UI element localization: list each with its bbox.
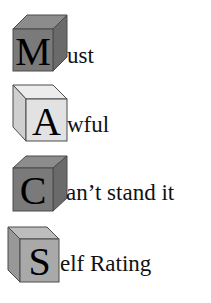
cube-letter: S <box>20 242 59 282</box>
cube-icon-m: M <box>12 14 68 72</box>
acronym-row-must: M ust <box>0 0 211 75</box>
word-remainder: ust <box>67 44 94 67</box>
cube-letter: C <box>13 171 53 211</box>
cube-icon-a: A <box>12 84 68 142</box>
cube-icon-s: S <box>7 226 60 283</box>
word-remainder: elf Rating <box>60 252 151 275</box>
acronym-row-awful: A wful <box>0 75 211 150</box>
cube-icon-c: C <box>12 155 68 213</box>
cube-letter: A <box>26 102 67 142</box>
acronym-row-cant-stand-it: C an’t stand it <box>0 150 211 222</box>
word-remainder: wful <box>67 113 109 136</box>
acronym-row-self-rating: S elf Rating <box>0 222 211 303</box>
cube-letter: M <box>13 32 53 72</box>
word-remainder: an’t stand it <box>66 181 174 204</box>
